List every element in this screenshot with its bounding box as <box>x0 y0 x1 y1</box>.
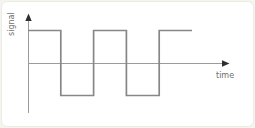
x-axis-label: time <box>216 71 234 80</box>
plot-canvas: signal time <box>0 0 255 128</box>
square-wave-plot: signal time <box>0 0 255 128</box>
y-axis-arrowhead-icon <box>25 14 31 22</box>
y-axis-label: signal <box>7 12 16 36</box>
x-axis-arrowhead-icon <box>222 60 230 66</box>
